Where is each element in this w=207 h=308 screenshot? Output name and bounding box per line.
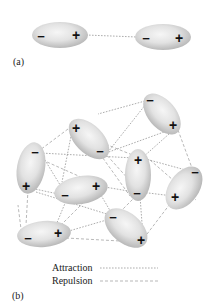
legend-attraction-label: Attraction	[52, 262, 93, 273]
panel-b: −+−+−+−+−+−+−+−+ (b)	[12, 87, 207, 302]
positive-charge-icon: +	[171, 189, 179, 205]
dipole-molecule: −+	[52, 172, 110, 209]
positive-charge-icon: +	[137, 232, 145, 248]
attraction-bond-line	[86, 35, 137, 37]
negative-charge-icon: −	[146, 93, 154, 108]
positive-charge-icon: +	[134, 152, 142, 168]
molecule-ellipse	[158, 160, 207, 217]
attraction-bond-line	[108, 104, 146, 152]
negative-charge-icon: −	[109, 210, 117, 225]
repulsion-bond-line	[178, 130, 192, 168]
legend: Attraction Repulsion	[52, 262, 158, 286]
dipole-molecule: −+	[135, 24, 191, 50]
positive-charge-icon: +	[92, 178, 100, 194]
negative-charge-icon: −	[24, 231, 32, 246]
negative-charge-icon: −	[142, 31, 150, 46]
negative-charge-icon: −	[61, 188, 69, 203]
attraction-bond-line	[62, 131, 72, 182]
positive-charge-icon: +	[72, 27, 80, 43]
repulsion-bond-line	[26, 190, 28, 225]
negative-charge-icon: −	[96, 144, 104, 159]
molecule-ellipse	[136, 87, 188, 142]
dipole-molecule: −+	[61, 111, 116, 166]
positive-charge-icon: +	[72, 120, 80, 136]
negative-charge-icon: −	[133, 186, 141, 201]
dipole-molecule: −+	[97, 200, 155, 255]
dipole-molecule: −+	[13, 140, 50, 196]
negative-charge-icon: −	[31, 145, 39, 160]
negative-charge-icon: −	[37, 29, 45, 44]
positive-charge-icon: +	[54, 225, 62, 241]
panel-b-label: (b)	[12, 290, 24, 302]
dipole-molecule: −+	[16, 219, 72, 250]
attraction-bond-line	[98, 101, 145, 114]
dipole-molecule: −+	[125, 149, 151, 201]
panel-a: −+−+ (a)	[13, 22, 191, 68]
dipole-interaction-diagram: −+−+ (a) −+−+−+−+−+−+−+−+ (b) Attraction…	[0, 0, 207, 308]
positive-charge-icon: +	[169, 117, 177, 133]
molecule-ellipse	[61, 111, 116, 166]
legend-repulsion-label: Repulsion	[52, 275, 93, 286]
molecule-ellipse	[97, 200, 155, 255]
negative-charge-icon: −	[191, 165, 199, 180]
panel-a-bonds	[86, 35, 137, 37]
positive-charge-icon: +	[175, 30, 183, 46]
repulsion-bond-line	[40, 126, 72, 150]
dipole-molecule: −+	[32, 22, 88, 48]
positive-charge-icon: +	[22, 178, 30, 194]
dipole-molecule: −+	[136, 87, 188, 142]
dipole-molecule: −+	[158, 160, 207, 217]
panel-a-label: (a)	[13, 56, 24, 68]
panel-b-molecules: −+−+−+−+−+−+−+−+	[13, 87, 207, 256]
